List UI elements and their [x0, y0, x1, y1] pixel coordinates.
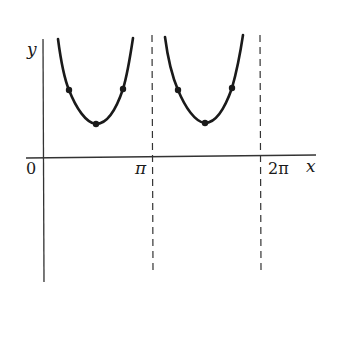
- point-marker: [175, 87, 181, 93]
- chart-plot-area: y x 0 π 2π: [0, 0, 338, 341]
- point-marker: [120, 86, 126, 92]
- curve-branch-2: [165, 35, 243, 123]
- x-axis-label: x: [306, 156, 316, 176]
- origin-label: 0: [26, 159, 36, 178]
- asymptote-2pi: [260, 35, 261, 270]
- point-marker: [202, 120, 208, 126]
- point-marker: [93, 121, 99, 127]
- point-marker: [229, 85, 235, 91]
- curve-branch-1: [58, 38, 133, 124]
- y-axis: [43, 39, 44, 282]
- tick-label-pi: π: [134, 158, 147, 178]
- y-axis-label: y: [26, 39, 37, 59]
- x-axis: [26, 155, 316, 158]
- tick-label-2pi: 2π: [268, 159, 289, 178]
- asymptote-pi: [152, 35, 153, 271]
- point-marker: [66, 87, 72, 93]
